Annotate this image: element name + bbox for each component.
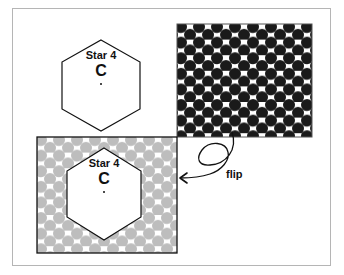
top-tile-dot [100,83,102,85]
top-tile-letter: C [76,63,126,79]
diagram-canvas [0,0,344,275]
bottom-tile-dot [103,191,105,193]
flip-label: flip [226,168,243,180]
dark-dot-pattern-panel [177,24,312,137]
bottom-tile-label: Star 4 [79,157,129,169]
bottom-tile-letter: C [79,171,129,187]
top-tile-label: Star 4 [76,49,126,61]
